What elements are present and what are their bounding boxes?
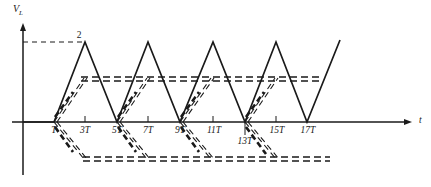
x-tick-label-5T: 5T	[112, 126, 122, 136]
x-tick-label-T: T	[51, 126, 56, 136]
y-axis-arrow	[20, 23, 26, 31]
lower-level-double-dash	[83, 157, 330, 161]
waveform-figure: VL t 2 T 3T 5T 7T 9T 11T 13T 15T 17T	[0, 0, 431, 187]
x-tick-label-3T: 3T	[80, 126, 90, 136]
plot-canvas	[0, 0, 431, 187]
x-tick-label-17T: 17T	[301, 126, 316, 136]
x-tick-label-11T: 11T	[207, 126, 221, 136]
level-2-label: 2	[77, 31, 82, 41]
x-tick-label-9T: 9T	[175, 126, 185, 136]
rising-dashed-ramps	[54, 78, 278, 122]
y-axis-title: VL	[13, 4, 23, 17]
upper-level-double-dash	[81, 77, 322, 81]
x-axis-arrow	[404, 119, 412, 125]
thick-dashed-onset-strokes	[55, 92, 266, 154]
x-axis-title: t	[419, 116, 422, 126]
x-tick-label-13T: 13T	[238, 137, 253, 147]
x-tick-label-7T: 7T	[143, 126, 153, 136]
x-tick-label-15T: 15T	[270, 126, 285, 136]
y-axis-title-sub: L	[19, 9, 23, 17]
